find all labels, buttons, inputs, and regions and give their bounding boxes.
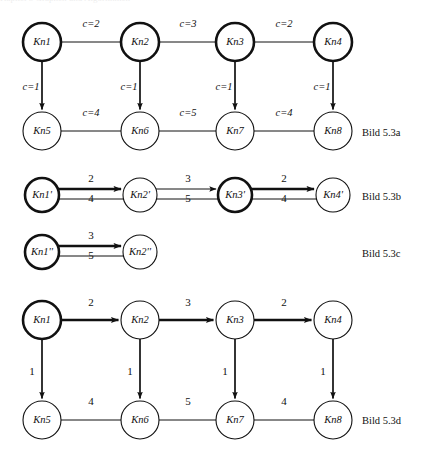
node-label: Kn7 [225, 414, 244, 425]
node-bild-5-3a-n6[interactable]: Kn6 [121, 112, 159, 150]
edge-label-q2-q6: 1 [127, 365, 133, 377]
edge-top-label-m3-m4: 2 [281, 172, 287, 184]
edge-top-label-m1-m2: 2 [88, 172, 94, 184]
node-bild-5-3d-q1[interactable]: Kn1 [23, 301, 61, 339]
node-label: Kn1 [32, 314, 51, 325]
edge-label-q1-q2: 2 [88, 296, 94, 308]
node-bild-5-3d-q4[interactable]: Kn4 [314, 301, 352, 339]
edge-label-q6-q7: 5 [185, 395, 191, 407]
node-bild-5-3a-n7[interactable]: Kn7 [216, 112, 254, 150]
edge-label-q3-q4: 2 [281, 296, 287, 308]
edge-label-n2-n6: c=1 [121, 81, 138, 92]
edge-label-n4-n8: c=1 [314, 81, 331, 92]
edge-bottom-label-m1-m2: 4 [88, 192, 94, 204]
node-label: Kn5 [32, 125, 51, 136]
edge-label-q4-q8: 1 [320, 365, 326, 377]
caption-bild-5-3c: Bild 5.3c [362, 248, 401, 259]
node-label: Kn1'' [30, 246, 54, 257]
edge-label-q2-q3: 3 [185, 296, 191, 308]
node-bild-5-3d-q5[interactable]: Kn5 [23, 401, 61, 439]
node-label: Kn1 [32, 36, 51, 47]
node-bild-5-3d-q8[interactable]: Kn8 [314, 401, 352, 439]
node-bild-5-3b-m1[interactable]: Kn1' [25, 178, 59, 212]
node-label: Kn6 [130, 125, 149, 136]
figure-page: Kapitel 5 Graphen und Algorithmen c=2c=3… [0, 0, 427, 457]
node-bild-5-3d-q2[interactable]: Kn2 [121, 301, 159, 339]
node-bild-5-3d-q6[interactable]: Kn6 [121, 401, 159, 439]
node-label: Kn1' [31, 189, 53, 200]
node-label: Kn2 [130, 36, 149, 47]
node-bild-5-3d-q3[interactable]: Kn3 [216, 301, 254, 339]
edge-label-n1-n2: c=2 [83, 18, 101, 29]
node-bild-5-3a-n5[interactable]: Kn5 [23, 112, 61, 150]
caption-bild-5-3a: Bild 5.3a [362, 127, 401, 138]
caption-bild-5-3b: Bild 5.3b [362, 191, 401, 202]
node-bild-5-3a-n8[interactable]: Kn8 [314, 112, 352, 150]
edge-label-q3-q7: 1 [222, 365, 228, 377]
node-bild-5-3d-q7[interactable]: Kn7 [216, 401, 254, 439]
node-bild-5-3a-n2[interactable]: Kn2 [121, 23, 159, 61]
figure-bild-5-3c: 35Kn1''Kn2''Bild 5.3c [25, 229, 401, 269]
figure-bild-5-3d: 2324541111Kn1Kn2Kn3Kn4Kn5Kn6Kn7Kn8Bild 5… [23, 296, 402, 439]
caption-bild-5-3d: Bild 5.3d [362, 415, 402, 426]
figure-bild-5-3a: c=2c=3c=2c=4c=5c=4c=1c=1c=1c=1Kn1Kn2Kn3K… [23, 18, 401, 150]
node-label: Kn4 [323, 314, 342, 325]
edge-label-n2-n3: c=3 [180, 18, 197, 29]
node-label: Kn2'' [128, 246, 152, 257]
node-label: Kn5 [32, 414, 51, 425]
node-label: Kn6 [130, 414, 149, 425]
edge-label-n1-n5: c=1 [23, 81, 40, 92]
figure-bild-5-3b: 243524Kn1'Kn2'Kn3'Kn4'Bild 5.3b [25, 172, 401, 212]
node-label: Kn3 [225, 36, 244, 47]
node-bild-5-3b-m3[interactable]: Kn3' [218, 178, 252, 212]
node-label: Kn8 [323, 125, 342, 136]
edge-label-n3-n7: c=1 [216, 81, 233, 92]
node-bild-5-3a-n4[interactable]: Kn4 [314, 23, 352, 61]
node-bild-5-3c-p2[interactable]: Kn2'' [123, 235, 157, 269]
edge-bottom-label-p1-p2: 5 [88, 249, 94, 261]
edge-label-q1-q5: 1 [29, 365, 35, 377]
node-label: Kn2' [129, 189, 151, 200]
edge-label-q7-q8: 4 [281, 395, 287, 407]
edge-top-label-p1-p2: 3 [88, 229, 94, 241]
figure-canvas: c=2c=3c=2c=4c=5c=4c=1c=1c=1c=1Kn1Kn2Kn3K… [0, 0, 427, 457]
edge-label-n6-n7: c=5 [180, 107, 197, 118]
edge-top-label-m2-m3: 3 [185, 172, 191, 184]
node-label: Kn4 [323, 36, 342, 47]
node-label: Kn3 [225, 314, 244, 325]
node-bild-5-3b-m4[interactable]: Kn4' [316, 178, 350, 212]
node-label: Kn4' [322, 189, 344, 200]
edge-label-q5-q6: 4 [88, 395, 94, 407]
node-bild-5-3b-m2[interactable]: Kn2' [123, 178, 157, 212]
node-label: Kn2 [130, 314, 149, 325]
edge-label-n5-n6: c=4 [83, 107, 101, 118]
node-bild-5-3c-p1[interactable]: Kn1'' [25, 235, 59, 269]
node-label: Kn3' [224, 189, 246, 200]
node-label: Kn7 [225, 125, 244, 136]
node-bild-5-3a-n1[interactable]: Kn1 [23, 23, 61, 61]
node-bild-5-3a-n3[interactable]: Kn3 [216, 23, 254, 61]
edge-bottom-label-m2-m3: 5 [185, 192, 191, 204]
edge-label-n3-n4: c=2 [276, 18, 294, 29]
edge-bottom-label-m3-m4: 4 [281, 192, 287, 204]
edge-label-n7-n8: c=4 [276, 107, 294, 118]
node-label: Kn8 [323, 414, 342, 425]
